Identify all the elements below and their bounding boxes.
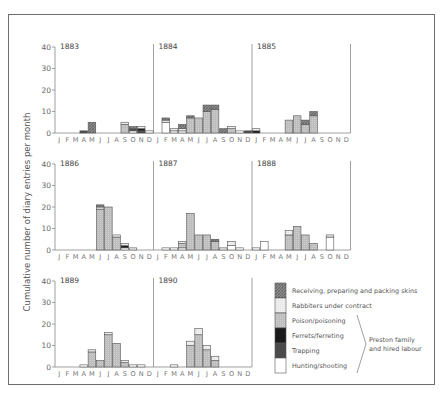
legend-swatch-receiving [275,283,286,298]
bar-segment-poison [195,118,203,133]
bar-segment-receiving [211,105,219,109]
x-tick-label: S [123,253,127,261]
x-tick-label: S [221,136,225,144]
bar-segment-poison [113,343,121,367]
bar-segment-poison [293,116,301,133]
x-tick-label: D [245,253,250,261]
panel-year-label: 1888 [257,159,276,168]
bar-segment-poison [121,124,129,133]
bar-segment-rabbiters [88,350,96,352]
bar-segment-poison [310,116,318,133]
panel-1889: 1889JFMAMJJASOND [57,276,153,378]
bar-segment-poison [195,335,203,367]
x-tick-label: A [114,370,119,378]
bar-segment-rabbiters [129,248,137,250]
x-tick-label: A [81,136,86,144]
bar-segment-poison [302,124,310,133]
y-tick-label: 20 [41,86,51,95]
x-tick-label: M [73,136,79,144]
x-tick-label: A [114,253,119,261]
bar-segment-poison [187,346,195,368]
bar-segment-trapping [129,129,137,131]
bar-segment-ferrets [137,129,145,131]
y-tick-label: 30 [41,64,51,73]
x-tick-label: F [164,370,168,378]
x-tick-label: O [229,370,234,378]
bar-segment-hunting [170,365,178,367]
chart-panels: 0102030401883JFMAMJJASOND1884JFMAMJJASON… [41,42,350,378]
bar-segment-hunting [162,248,170,250]
y-tick-label: 10 [41,107,51,116]
x-tick-label: M [270,253,276,261]
bar-segment-rabbiters [170,129,178,131]
x-tick-label: J [295,136,298,144]
bar-segment-rabbiters [178,129,186,131]
bar-segment-receiving [178,124,186,128]
bar-segment-receiving [211,239,219,241]
bar-segment-receiving [96,205,104,207]
x-tick-label: N [139,253,144,261]
bar-segment-receiving [310,112,318,116]
x-tick-label: A [180,136,185,144]
x-tick-label: J [156,253,159,261]
y-tick-label: 40 [41,43,51,52]
bar-segment-hunting [170,248,178,250]
bracket-label-line2: and hired labour [369,345,422,353]
x-tick-label: S [320,136,324,144]
bar-segment-receiving [162,118,170,120]
x-tick-label: D [245,370,250,378]
panel-1883: 1883JFMAMJJASOND [57,42,153,144]
legend-bracket [357,315,366,373]
y-tick-label: 30 [41,181,51,190]
bar-segment-rabbiters [326,235,334,237]
x-tick-label: J [205,370,208,378]
x-tick-label: O [229,253,234,261]
x-tick-label: A [180,370,185,378]
bar-segment-poison [195,235,203,250]
bar-segment-poison [228,129,236,133]
bar-segment-poison [96,361,104,367]
x-tick-label: D [147,253,152,261]
bar-segment-poison [310,244,318,250]
bar-segment-rabbiters [252,129,260,131]
bar-segment-poison [96,209,104,250]
bar-segment-rabbiters [113,235,121,237]
x-tick-label: M [270,136,276,144]
bar-segment-rabbiters [137,127,145,129]
x-tick-label: N [336,136,341,144]
x-tick-label: A [213,136,218,144]
bar-segment-poison [293,226,301,250]
bar-segment-poison [203,235,211,250]
x-tick-label: N [237,370,242,378]
x-tick-label: F [164,253,168,261]
x-tick-label: M [89,136,95,144]
y-tick-label: 30 [41,298,51,307]
x-tick-label: N [336,253,341,261]
x-tick-label: M [188,136,194,144]
chart-canvas: Cumulative number of diary entries per m… [0,0,445,413]
x-tick-label: J [106,253,109,261]
bar-segment-hunting [326,237,334,250]
bar-segment-rabbiters [96,207,104,209]
y-axis-title: Cumulative number of diary entries per m… [22,113,32,312]
x-tick-label: S [123,136,127,144]
x-tick-label: M [171,253,177,261]
x-tick-label: F [262,136,266,144]
legend-label-ferrets: Ferrets/ferreting [292,332,344,340]
x-tick-label: J [57,370,60,378]
x-tick-label: M [73,253,79,261]
x-tick-label: N [139,136,144,144]
x-tick-label: M [188,370,194,378]
y-tick-label: 20 [41,203,51,212]
x-tick-label: J [98,136,101,144]
bar-segment-trapping [137,131,145,133]
legend: Receiving, preparing and packing skinsRa… [275,283,422,373]
bar-segment-rabbiters [178,241,186,243]
bar-segment-receiving [88,122,96,133]
x-tick-label: O [130,370,135,378]
bar-segment-rabbiters [195,328,203,334]
x-tick-label: M [286,253,292,261]
x-tick-label: A [81,253,86,261]
x-tick-label: S [221,370,225,378]
bar-segment-rabbiters [228,127,236,129]
